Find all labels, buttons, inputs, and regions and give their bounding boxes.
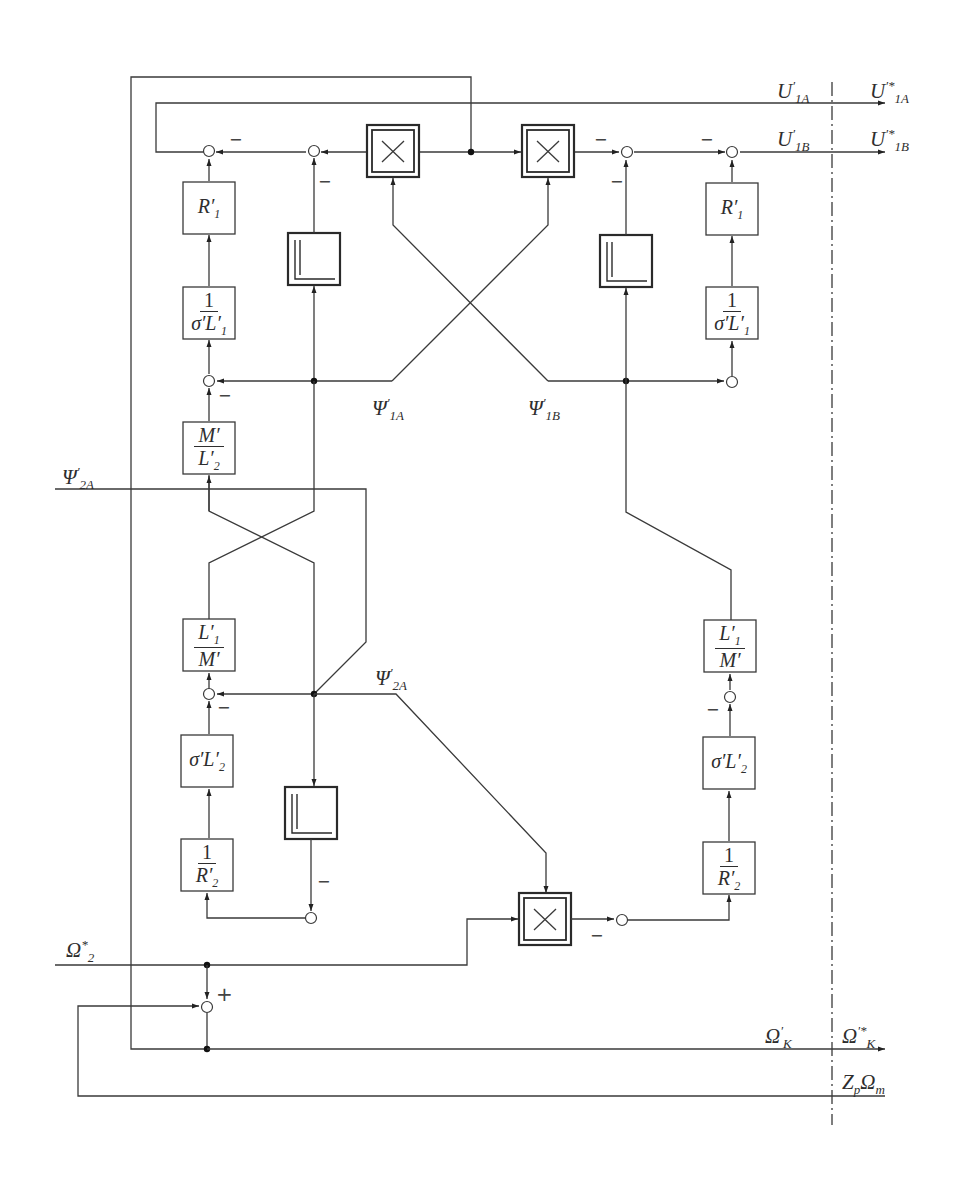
label-omega2-star: Ω*2 <box>66 938 94 964</box>
sign-minus-integrator-bottom: − <box>317 874 330 890</box>
block-inv-sigma-l1-right-text: 1 σ′L′1 <box>706 287 758 339</box>
label-psi1a: Ψ′1A <box>372 396 404 422</box>
sum-junction-top-left-1 <box>204 146 215 157</box>
label-u1b-star: U′*1B <box>870 127 909 153</box>
block-m-over-l2-text: M′ L′2 <box>183 422 235 474</box>
block-inv-sigma-l1-left-text: 1 σ′L′1 <box>183 287 235 339</box>
sum-junction-omega <box>202 1002 213 1013</box>
sign-minus-top-left-2: − <box>318 174 331 190</box>
sum-junction-bottom-left <box>306 913 317 924</box>
label-u1a-star: U′*1A <box>870 79 909 105</box>
u1a-output-line <box>156 103 885 152</box>
label-zp-omega-m: ZpΩm <box>842 1072 885 1096</box>
sign-minus-top-left-1: − <box>229 132 242 148</box>
sum-junction-top-left-2 <box>309 146 320 157</box>
sum-junction-left-psi2 <box>204 689 215 700</box>
block-sigma-l2-left-text: σ′L′2 <box>181 735 233 787</box>
sum-junction-top-right-1 <box>622 147 633 158</box>
zp-omega-m-line <box>78 1006 885 1096</box>
multiplier-top-left <box>367 125 419 177</box>
block-r1-left-text: R′1 <box>183 182 235 234</box>
sign-minus-left-psi: − <box>218 388 231 404</box>
sum-junction-left-psi <box>204 376 215 387</box>
block-inv-r2-right-text: 1 R′2 <box>703 842 755 894</box>
omega2-star-line <box>55 919 518 999</box>
sign-minus-top-right-3: − <box>610 174 623 190</box>
block-l1-over-m-right-text: L′1 M′ <box>704 620 756 672</box>
block-l1-over-m-left-text: L′1 M′ <box>183 619 235 671</box>
label-u1b: U′1B <box>777 127 809 153</box>
sign-minus-multiplier-bottom: − <box>590 928 603 944</box>
block-sigma-l2-right-text: σ′L′2 <box>703 737 755 789</box>
outer-loop-omega-k <box>131 77 471 1049</box>
block-diagram <box>0 0 955 1177</box>
integrator-top-right <box>600 235 652 287</box>
label-u1a: U′1A <box>777 79 809 105</box>
block-r1-right-text: R′1 <box>706 183 758 235</box>
label-psi1b: Ψ′1B <box>528 396 560 422</box>
label-psi2a: Ψ′2A <box>375 666 407 692</box>
multiplier-bottom <box>519 893 571 945</box>
sign-minus-top-right-1: − <box>594 132 607 148</box>
sign-minus-right-psi2: − <box>706 702 719 718</box>
integrator-bottom-left <box>285 787 337 839</box>
block-inv-r2-left-text: 1 R′2 <box>181 839 233 891</box>
sum-junction-top-right-2 <box>727 147 738 158</box>
sum-junction-right-psi2 <box>725 692 736 703</box>
label-omega-k: Ω′K <box>765 1024 792 1050</box>
integrator-top-left <box>288 233 340 285</box>
sign-plus-omega: + <box>216 984 233 1004</box>
label-omega-k-star: Ω′*K <box>842 1024 875 1050</box>
psi1b-bus <box>393 178 724 384</box>
sign-minus-left-psi2: − <box>217 700 230 716</box>
sign-minus-top-right-2: − <box>700 132 713 148</box>
multiplier-top-right <box>522 125 574 177</box>
label-psi2a-input: Ψ′2A <box>62 465 94 491</box>
sum-junction-right-psi <box>727 377 738 388</box>
psi1a-bus <box>217 178 548 384</box>
sum-junction-bottom-right <box>617 915 628 926</box>
